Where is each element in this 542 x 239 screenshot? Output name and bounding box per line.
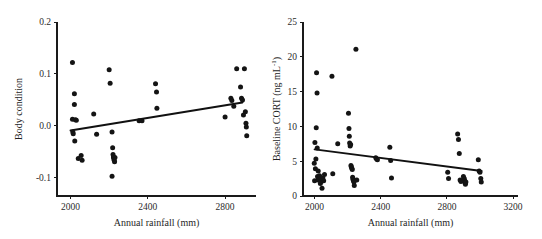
y-tick-label: 0.1 (39, 69, 51, 79)
x-tick-label: 2400 (371, 202, 390, 212)
data-point (335, 141, 340, 146)
data-point (244, 124, 249, 129)
data-point (229, 98, 234, 103)
data-point (154, 106, 159, 111)
data-point (315, 90, 320, 95)
y-tick-label: 0.2 (39, 17, 51, 27)
data-point (346, 126, 351, 131)
data-point (110, 174, 115, 179)
data-point (242, 66, 247, 71)
y-tick-label: 20 (288, 52, 298, 62)
x-tick-label: 2800 (437, 202, 456, 212)
data-point (112, 155, 117, 160)
x-tick-label: 2800 (216, 202, 235, 212)
data-point (70, 60, 75, 65)
data-point (353, 47, 358, 52)
scatter-plot-baseline-cort: 05101520252000240028003200Annual rainfal… (271, 0, 542, 239)
data-point (314, 125, 319, 130)
y-tick-label: 0 (292, 191, 297, 201)
data-point (456, 137, 461, 142)
x-axis-title: Annual rainfall (mm) (114, 217, 200, 229)
data-point (479, 180, 484, 185)
data-point (72, 138, 77, 143)
data-point (234, 66, 239, 71)
axis-lines (303, 22, 518, 196)
data-point (72, 91, 77, 96)
y-axis-title: Baseline CORT (ng mL-1) (271, 57, 283, 161)
data-point (320, 186, 325, 191)
data-point (223, 115, 228, 120)
x-tick-label: 2000 (305, 202, 324, 212)
data-point (238, 84, 243, 89)
data-point (350, 167, 355, 172)
figure-container: -0.10.00.10.2200024002800Annual rainfall… (0, 0, 542, 239)
data-point (72, 102, 77, 107)
x-tick-label: 3200 (504, 202, 523, 212)
y-tick-label: 15 (288, 87, 298, 97)
x-tick-label: 2000 (61, 202, 80, 212)
data-point (352, 183, 357, 188)
data-point (80, 158, 85, 163)
data-point (387, 145, 392, 150)
data-point (107, 67, 112, 72)
data-point (455, 132, 460, 137)
y-tick-label: 25 (288, 17, 298, 27)
data-point (321, 178, 326, 183)
data-point (154, 90, 159, 95)
data-point (74, 118, 79, 123)
data-point (389, 175, 394, 180)
y-tick-label: 10 (288, 122, 298, 132)
scatter-plot-body-condition: -0.10.00.10.2200024002800Annual rainfall… (0, 0, 271, 239)
data-point (312, 140, 317, 145)
data-points-group (312, 47, 484, 191)
data-point (330, 171, 335, 176)
data-point (329, 74, 334, 79)
data-point (446, 176, 451, 181)
regression-trend-line (315, 149, 482, 171)
data-point (348, 142, 353, 147)
data-point (79, 153, 84, 158)
y-tick-label: 5 (292, 157, 297, 167)
data-point (463, 180, 468, 185)
data-point (91, 111, 96, 116)
data-point (457, 151, 462, 156)
data-point (346, 111, 351, 116)
chart-panel-baseline-cort: 05101520252000240028003200Annual rainfal… (271, 0, 542, 239)
data-point (110, 145, 115, 150)
data-point (347, 134, 352, 139)
data-point (445, 170, 450, 175)
data-point (243, 109, 248, 114)
data-point (94, 132, 99, 137)
y-axis-title: Body condition (13, 78, 24, 140)
data-point (322, 172, 327, 177)
y-tick-label: -0.1 (36, 173, 51, 183)
x-tick-label: 2400 (138, 202, 157, 212)
x-axis-title: Annual rainfall (mm) (368, 217, 454, 229)
data-point (71, 131, 76, 136)
data-point (244, 133, 249, 138)
data-point (108, 81, 113, 86)
data-point (153, 81, 158, 86)
data-point (476, 157, 481, 162)
y-tick-label: 0.0 (39, 121, 51, 131)
chart-panel-body-condition: -0.10.00.10.2200024002800Annual rainfall… (0, 0, 271, 239)
data-points-group (70, 60, 249, 179)
data-point (110, 130, 115, 135)
data-point (313, 157, 318, 162)
data-point (316, 168, 321, 173)
data-point (314, 70, 319, 75)
data-point (354, 177, 359, 182)
